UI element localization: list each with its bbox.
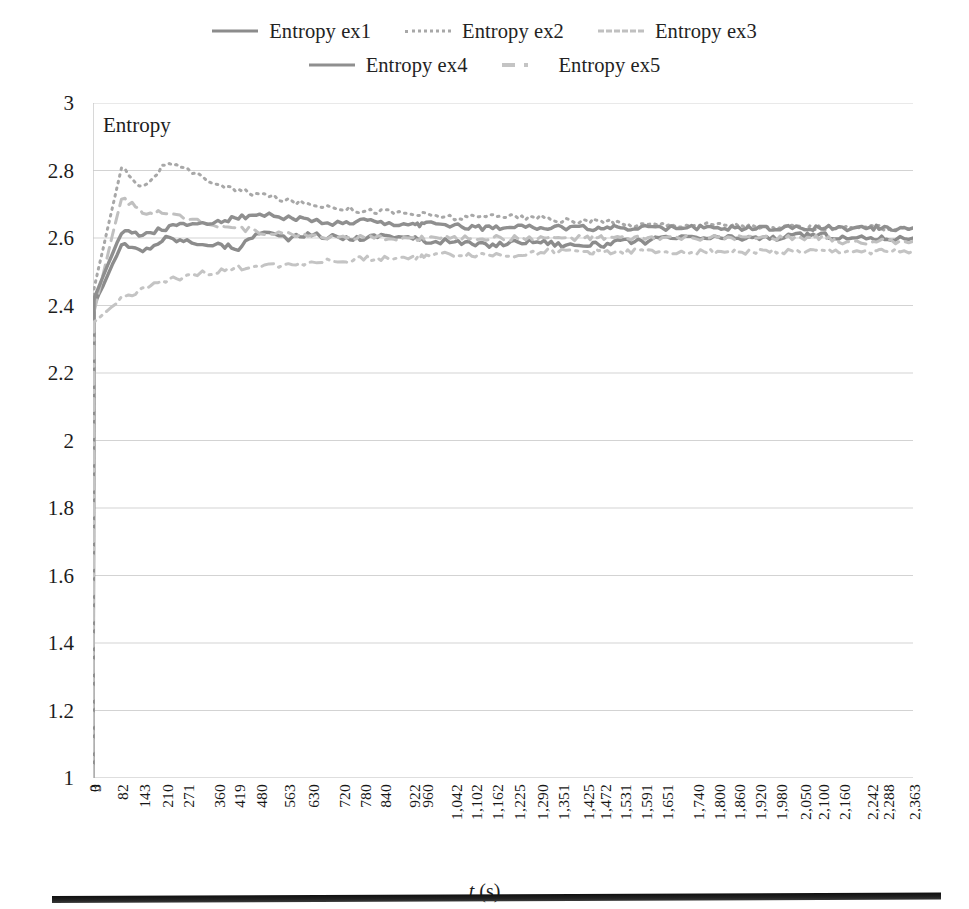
y-axis-tick-labels: 32.82.62.42.221.81.61.41.21 (0, 103, 84, 778)
x-axis-tick-label: 1,651 (659, 784, 677, 820)
y-axis-tick-label: 2.8 (48, 158, 74, 183)
series-line-entropy-ex5 (93, 249, 913, 777)
entropy-line-chart: 32.82.62.42.221.81.61.41.21 Entropy 0382… (0, 0, 969, 909)
x-axis-tick-label: 960 (419, 784, 437, 808)
y-axis-tick-label: 3 (64, 91, 75, 116)
x-axis-tick-label: 210 (159, 784, 177, 808)
x-axis-tick-label: 2,288 (880, 784, 898, 820)
x-axis-tick-label: 143 (136, 784, 154, 808)
x-axis-tick-label: 360 (211, 784, 229, 808)
y-axis-tick-label: 2.2 (48, 361, 74, 386)
x-axis-tick-label: 1,425 (580, 784, 598, 820)
x-axis-tick-label: 419 (231, 784, 249, 808)
y-axis-tick-label: 2 (64, 428, 75, 453)
x-axis-tick-label: 1,980 (773, 784, 791, 820)
x-axis-tick-label: 1,920 (752, 784, 770, 820)
x-axis-tick-label: 1,531 (617, 784, 635, 820)
x-axis-tick-label: 1,290 (534, 784, 552, 820)
y-axis-tick-label: 1.6 (48, 563, 74, 588)
x-axis-tick-label: 82 (114, 784, 132, 800)
x-axis-tick-label: 1,162 (489, 784, 507, 820)
x-axis-tick-label: 2,363 (906, 784, 924, 820)
series-line-entropy-ex2 (93, 164, 913, 778)
y-axis-tick-label: 2.4 (48, 293, 74, 318)
y-axis-tick-label: 2.6 (48, 226, 74, 251)
x-axis-tick-label: 1,472 (597, 784, 615, 820)
plot-svg (93, 103, 913, 778)
x-axis-tick-label: 1,225 (511, 784, 529, 820)
x-axis-tick-label: 2,100 (815, 784, 833, 820)
x-axis-tick-label: 630 (305, 784, 323, 808)
y-axis-tick-label: 1 (64, 766, 75, 791)
x-axis-tick-label: 1,740 (690, 784, 708, 820)
series-line-entropy-ex3 (93, 198, 913, 778)
x-axis-tick-label: 480 (253, 784, 271, 808)
x-axis-tick-label: 720 (336, 784, 354, 808)
x-axis-tick-label: 1,591 (638, 784, 656, 820)
x-axis-tick-label: 1,102 (468, 784, 486, 820)
plot-area (93, 103, 913, 778)
x-axis-tick-label: 3 (87, 784, 105, 792)
x-axis-tick-label: 1,860 (731, 784, 749, 820)
y-axis-tick-label: 1.4 (48, 631, 74, 656)
x-axis-tick-label: 1,042 (448, 784, 466, 820)
x-axis-tick-label: 271 (180, 784, 198, 808)
x-axis-tick-label: 840 (377, 784, 395, 808)
x-axis-tick-labels: 0382143210271360419480563630720780840922… (93, 784, 913, 880)
x-axis-tick-label: 780 (357, 784, 375, 808)
series-line-entropy-ex1 (93, 232, 913, 778)
x-axis-tick-label: 1,800 (711, 784, 729, 820)
series-line-entropy-ex4 (93, 213, 913, 778)
x-axis-tick-label: 2,050 (797, 784, 815, 820)
x-axis-tick-label: 2,160 (836, 784, 854, 820)
x-axis-tick-label: 1,351 (555, 784, 573, 820)
y-axis-tick-label: 1.2 (48, 698, 74, 723)
x-axis-tick-label: 563 (281, 784, 299, 808)
y-axis-tick-label: 1.8 (48, 496, 74, 521)
